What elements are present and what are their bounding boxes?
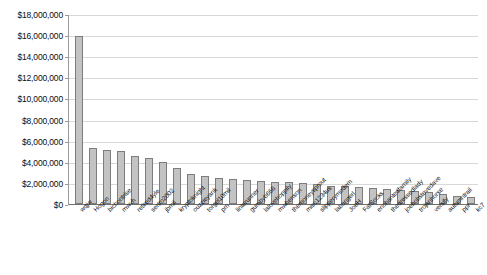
bar-slot <box>324 15 338 204</box>
bar-slot <box>184 15 198 204</box>
bar-slot <box>352 15 366 204</box>
bar[interactable] <box>89 148 98 204</box>
x-axis: wqjwHogonbichontrisemwvhretired4ylesertr… <box>68 206 478 275</box>
y-axis: $18,000,000$16,000,000$14,000,000$12,000… <box>0 0 68 275</box>
bar-slot <box>450 15 464 204</box>
bar[interactable] <box>173 168 182 204</box>
bar-slot <box>282 15 296 204</box>
bar-chart: $18,000,000$16,000,000$14,000,000$12,000… <box>0 0 487 275</box>
bar-slot <box>464 15 478 204</box>
bar-slot <box>212 15 226 204</box>
bars-container <box>69 15 478 204</box>
bar-slot <box>380 15 394 204</box>
y-tick-label: $16,000,000 <box>17 32 63 41</box>
bar-slot <box>408 15 422 204</box>
y-tick-label: $18,000,000 <box>17 11 63 20</box>
bar-slot <box>100 15 114 204</box>
y-tick-label: $2,000,000 <box>22 179 63 188</box>
bar-slot <box>240 15 254 204</box>
y-tick-label: $6,000,000 <box>22 137 63 146</box>
bar-slot <box>170 15 184 204</box>
y-tick-label: $14,000,000 <box>17 53 63 62</box>
bar-slot <box>72 15 86 204</box>
bar-slot <box>226 15 240 204</box>
plot-area <box>68 15 478 205</box>
y-tick-label: $0 <box>54 201 63 210</box>
bar-slot <box>338 15 352 204</box>
y-tick-label: $8,000,000 <box>22 116 63 125</box>
bar-slot <box>366 15 380 204</box>
y-tick-label: $10,000,000 <box>17 95 63 104</box>
bar-slot <box>156 15 170 204</box>
bar-slot <box>86 15 100 204</box>
y-tick-label: $4,000,000 <box>22 158 63 167</box>
bar-slot <box>142 15 156 204</box>
bar-slot <box>128 15 142 204</box>
bar-slot <box>296 15 310 204</box>
bar-slot <box>268 15 282 204</box>
bar-slot <box>114 15 128 204</box>
bar[interactable] <box>75 36 84 204</box>
bar-slot <box>254 15 268 204</box>
y-tick-label: $12,000,000 <box>17 74 63 83</box>
bar-slot <box>198 15 212 204</box>
